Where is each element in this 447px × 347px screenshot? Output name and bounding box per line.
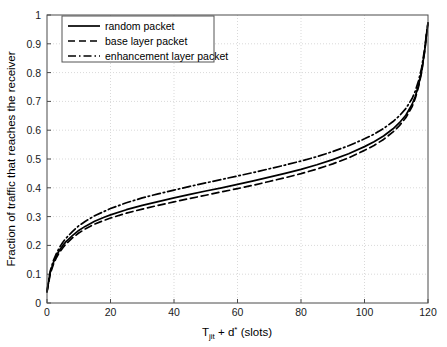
x-tick-label: 120	[419, 306, 437, 318]
legend-label: base layer packet	[105, 35, 187, 47]
x-tick-label: 80	[295, 306, 307, 318]
legend-label: random packet	[105, 20, 175, 32]
y-axis-title-text: Fraction of traffic that reaches the rec…	[5, 51, 17, 266]
x-axis-title: Tjit + d* (slots)	[202, 325, 272, 341]
y-axis-title: Fraction of traffic that reaches the rec…	[5, 51, 17, 266]
x-tick-labels: 020406080100120	[44, 306, 437, 318]
x-tick-label: 20	[105, 306, 117, 318]
y-tick-label: 0.2	[26, 239, 41, 251]
y-tick-labels: 00.10.20.30.40.50.60.70.80.91	[26, 9, 41, 309]
svg-text:Tjit + d* (slots): Tjit + d* (slots)	[202, 325, 272, 341]
y-tick-label: 0	[35, 297, 41, 309]
y-tick-label: 0.5	[26, 153, 41, 165]
line-chart: 020406080100120 00.10.20.30.40.50.60.70.…	[0, 0, 447, 347]
legend-label: enhancement layer packet	[105, 50, 228, 62]
y-tick-label: 0.1	[26, 268, 41, 280]
y-tick-label: 0.6	[26, 124, 41, 136]
y-tick-label: 0.9	[26, 38, 41, 50]
y-tick-label: 0.4	[26, 182, 41, 194]
y-tick-label: 1	[35, 9, 41, 21]
x-tick-label: 100	[356, 306, 374, 318]
y-tick-label: 0.7	[26, 95, 41, 107]
x-tick-label: 40	[168, 306, 180, 318]
y-tick-label: 0.8	[26, 67, 41, 79]
y-tick-label: 0.3	[26, 211, 41, 223]
chart-figure: 020406080100120 00.10.20.30.40.50.60.70.…	[0, 0, 447, 347]
x-tick-label: 60	[232, 306, 244, 318]
x-tick-label: 0	[44, 306, 50, 318]
chart-legend: random packetbase layer packetenhancemen…	[62, 16, 228, 62]
